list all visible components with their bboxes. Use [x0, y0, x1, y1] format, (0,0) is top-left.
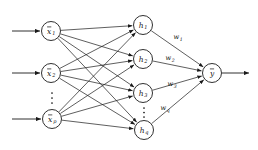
edge-x2-to-h1: [60, 30, 134, 68]
edge-x1-to-h1: [61, 26, 132, 31]
weight-base-w2: w: [166, 54, 172, 62]
edge-xp-to-h1: [59, 33, 136, 112]
node-y[interactable]: y: [203, 64, 222, 83]
node-hq[interactable]: hq: [135, 121, 154, 140]
edge-x1-to-hq: [58, 38, 137, 122]
node-h1[interactable]: h1: [134, 16, 153, 35]
edge-xp-to-hq: [62, 120, 133, 129]
node-h2[interactable]: h2: [134, 50, 153, 69]
edge-h2-to-y: [153, 61, 202, 71]
edge-x2-to-hq: [60, 78, 135, 124]
node-label-h3: h: [139, 89, 144, 98]
ellipsis-dot: [143, 112, 145, 114]
weight-subscript-wq: q: [167, 108, 170, 113]
weight-subscript-w3: 3: [174, 84, 177, 89]
node-subscript-x2: 2: [51, 72, 55, 78]
edge-xp-to-h3: [62, 96, 133, 116]
node-label-y: y: [209, 69, 215, 78]
node-x2[interactable]: x2: [42, 64, 61, 83]
neural-network-canvas: x1x2xph1h2h3hqy w1w2w3wq: [0, 0, 258, 150]
node-subscript-h1: 1: [144, 24, 147, 30]
weight-base-w3: w: [168, 80, 174, 88]
node-h3[interactable]: h3: [134, 84, 153, 103]
node-subscript-h2: 2: [143, 58, 147, 64]
ellipsis-dot: [51, 102, 53, 104]
hidden-layer-ellipsis: [143, 107, 145, 118]
edge-x2-to-h3: [61, 75, 133, 91]
weight-subscript-w1: 1: [180, 37, 183, 42]
ellipsis-dot: [143, 116, 145, 118]
node-subscript-hq: q: [145, 129, 148, 136]
node-label-h2: h: [139, 55, 144, 64]
node-xp[interactable]: xp: [43, 110, 62, 129]
node-subscript-x1: 1: [52, 30, 55, 36]
weight-label-wq: wq: [161, 104, 170, 113]
weight-subscript-w2: 2: [171, 58, 175, 63]
node-x1[interactable]: x1: [42, 22, 61, 41]
weight-label-w1: w1: [174, 33, 183, 42]
edges-hidden-to-output: [151, 31, 204, 124]
ellipsis-dot: [51, 92, 53, 94]
neural-network-diagram: x1x2xph1h2h3hqy w1w2w3wq: [0, 0, 258, 150]
input-layer-ellipsis: [51, 92, 53, 104]
node-label-h1: h: [139, 21, 144, 30]
edge-hq-to-y: [152, 80, 204, 124]
ellipsis-dot: [51, 97, 53, 99]
ellipsis-dot: [143, 107, 145, 109]
weight-base-w1: w: [174, 33, 180, 41]
weight-label-w3: w3: [168, 80, 177, 89]
weight-base-wq: w: [161, 104, 167, 112]
node-subscript-h3: 3: [144, 92, 147, 98]
edges-input-to-hidden: [58, 26, 137, 129]
weight-label-w2: w2: [166, 54, 175, 63]
node-label-hq: h: [140, 126, 145, 135]
